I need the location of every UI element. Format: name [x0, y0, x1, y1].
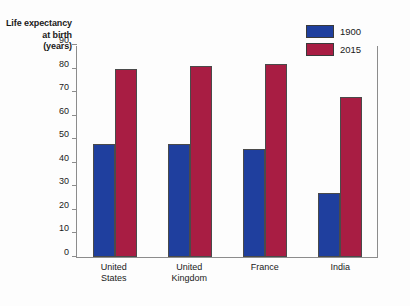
legend-item-1900: 1900	[306, 24, 361, 38]
x-axis-label-line: India	[303, 262, 379, 273]
y-axis-tick-label: 80	[45, 60, 69, 69]
bar-1900-india	[318, 193, 340, 257]
x-axis-labels: UnitedStatesUnitedKingdomFranceIndia	[76, 262, 378, 284]
bar-group	[77, 46, 152, 257]
x-axis-label-line: States	[76, 273, 152, 284]
x-axis-label-united-kingdom: UnitedKingdom	[152, 262, 228, 284]
x-axis-label-line: Kingdom	[152, 273, 228, 284]
legend-label-1900: 1900	[340, 26, 361, 37]
y-axis-tick-label: 0	[45, 248, 69, 257]
y-axis-tick-label: 70	[45, 83, 69, 92]
bar-2015-united-kingdom	[190, 66, 212, 257]
bar-chart: Life expectancy at birth (years) 1900 20…	[0, 0, 410, 306]
x-axis-label-line: United	[152, 262, 228, 273]
bar-group	[227, 46, 302, 257]
y-axis-tick-label: 40	[45, 154, 69, 163]
bar-1900-united-states	[93, 144, 115, 257]
bar-2015-france	[265, 64, 287, 257]
bar-2015-india	[340, 97, 362, 257]
y-axis-tick-label: 60	[45, 107, 69, 116]
bar-1900-united-kingdom	[168, 144, 190, 257]
y-axis-tick-label: 30	[45, 177, 69, 186]
x-axis-label-line: United	[76, 262, 152, 273]
x-axis-label-france: France	[227, 262, 303, 284]
bar-groups	[77, 46, 377, 257]
plot-area: 0102030405060708090	[76, 46, 378, 258]
bar-2015-united-states	[115, 69, 137, 257]
x-axis-label-line: France	[227, 262, 303, 273]
y-axis-title-line-1: Life expectancy	[0, 18, 72, 30]
y-axis-tick-label: 90	[45, 36, 69, 45]
y-axis-tick-label: 50	[45, 130, 69, 139]
x-axis-label-india: India	[303, 262, 379, 284]
legend-swatch-1900	[306, 25, 334, 38]
y-axis-tick	[72, 44, 77, 45]
bar-1900-france	[243, 149, 265, 257]
bar-group	[152, 46, 227, 257]
bar-group	[302, 46, 377, 257]
x-axis-label-united-states: UnitedStates	[76, 262, 152, 284]
y-axis-tick-label: 10	[45, 224, 69, 233]
y-axis-tick-label: 20	[45, 201, 69, 210]
